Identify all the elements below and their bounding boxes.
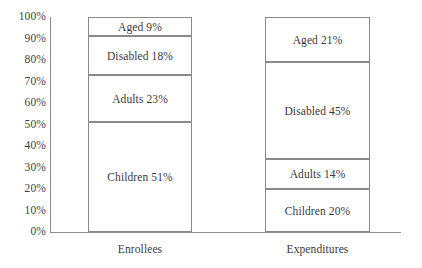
- bar-segment-aged: Aged 9%: [88, 17, 192, 36]
- y-axis-tick-label: 70%: [2, 76, 46, 88]
- y-axis-tick-label: 30%: [2, 162, 46, 174]
- y-axis-tick-label: 80%: [2, 54, 46, 66]
- bar-segment-adults: Adults 23%: [88, 75, 192, 122]
- bar-segment-adults: Adults 14%: [265, 159, 370, 189]
- y-axis-tick-label: 10%: [2, 205, 46, 217]
- y-axis-tick-label: 50%: [2, 119, 46, 131]
- y-axis-tick-label: 0%: [2, 226, 46, 238]
- stacked-bar-chart: 100%90%80%70%60%50%40%30%20%10%0% Aged 9…: [0, 0, 422, 268]
- bar-segment-label: Adults 23%: [112, 93, 168, 105]
- y-axis-tick-label: 60%: [2, 97, 46, 109]
- bar-segment-label: Children 51%: [107, 171, 172, 183]
- bar-expenditures: Aged 21%Disabled 45%Adults 14%Children 2…: [265, 17, 370, 232]
- bar-segment-label: Disabled 45%: [284, 105, 350, 117]
- bar-segment-disabled: Disabled 45%: [265, 62, 370, 159]
- bar-segment-aged: Aged 21%: [265, 17, 370, 62]
- y-axis-tick-label: 40%: [2, 140, 46, 152]
- bar-segment-children: Children 51%: [88, 122, 192, 232]
- bar-segment-label: Children 20%: [285, 205, 350, 217]
- bar-segment-label: Aged 21%: [293, 34, 343, 46]
- category-label-enrollees: Enrollees: [88, 243, 192, 255]
- bar-segment-label: Disabled 18%: [107, 50, 173, 62]
- bar-enrollees: Aged 9%Disabled 18%Adults 23%Children 51…: [88, 17, 192, 232]
- bar-segment-disabled: Disabled 18%: [88, 36, 192, 75]
- y-axis-line: [50, 17, 51, 232]
- bar-segment-label: Adults 14%: [290, 168, 346, 180]
- y-axis-tick-label: 90%: [2, 33, 46, 45]
- y-axis-tick-label: 20%: [2, 183, 46, 195]
- x-axis-line: [50, 232, 401, 233]
- y-axis-tick-labels: 100%90%80%70%60%50%40%30%20%10%0%: [0, 0, 46, 268]
- y-axis-tick-label: 100%: [2, 11, 46, 23]
- bar-segment-label: Aged 9%: [118, 21, 162, 33]
- bar-segment-children: Children 20%: [265, 189, 370, 232]
- category-label-expenditures: Expenditures: [265, 243, 370, 255]
